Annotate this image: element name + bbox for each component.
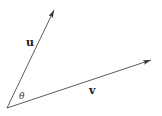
angle-theta-label: θ bbox=[19, 91, 25, 101]
vector-v-arrow bbox=[7, 60, 151, 108]
vector-v-label: v bbox=[88, 84, 96, 97]
vector-u-arrow bbox=[7, 10, 54, 108]
vector-u-label: u bbox=[26, 36, 34, 49]
vector-angle-diagram: u v θ bbox=[0, 0, 162, 116]
